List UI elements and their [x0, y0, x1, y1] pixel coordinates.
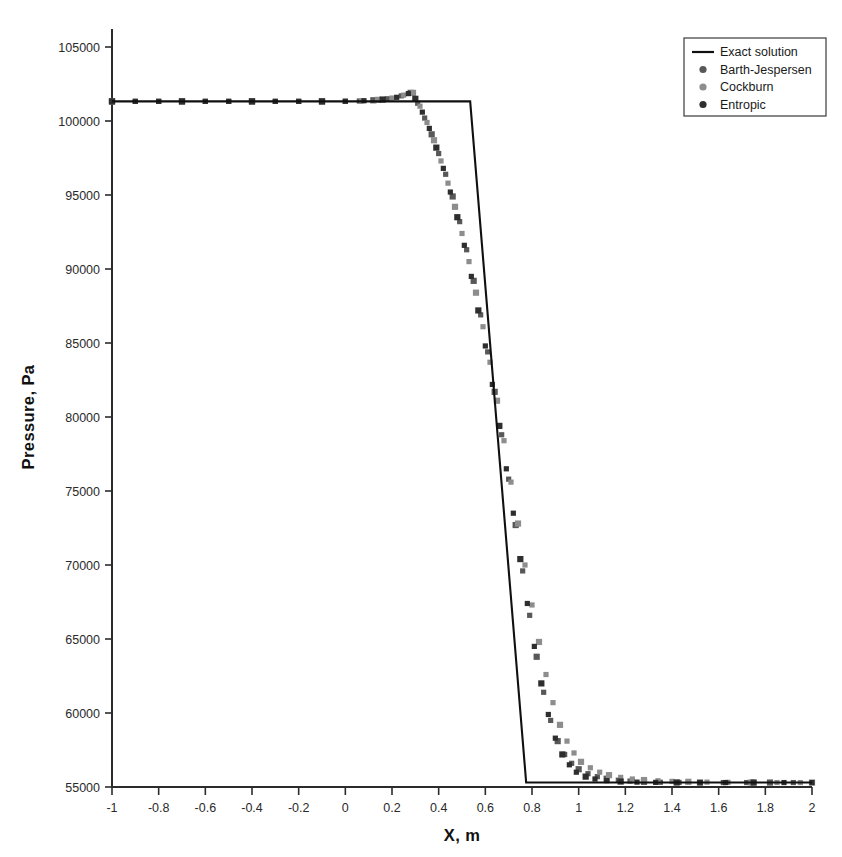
data-point	[436, 151, 441, 156]
y-tick-label: 60000	[65, 707, 100, 721]
data-point	[429, 131, 435, 137]
legend-label: Exact solution	[720, 45, 798, 59]
data-point	[420, 110, 425, 115]
y-tick-label: 100000	[58, 115, 100, 129]
series-cockburn	[109, 90, 815, 786]
y-tick-label: 80000	[65, 411, 100, 425]
legend-dot-swatch	[699, 66, 706, 73]
data-point	[522, 562, 527, 567]
data-point	[389, 95, 394, 100]
data-point	[588, 765, 593, 770]
data-point	[417, 104, 422, 109]
x-axis-tickmarks	[112, 787, 812, 795]
data-point	[534, 654, 540, 660]
data-point	[532, 644, 537, 649]
y-axis-tickmarks	[105, 47, 112, 787]
data-point	[485, 349, 490, 354]
data-point	[548, 718, 553, 723]
data-point	[517, 556, 523, 562]
data-point	[592, 776, 597, 781]
x-tick-label: 1.8	[757, 801, 774, 815]
x-tick-label: -0.8	[148, 801, 170, 815]
data-point	[464, 247, 469, 252]
data-point	[550, 700, 555, 705]
x-tick-label: 1	[575, 801, 582, 815]
chart-legend: Exact solutionBarth-JespersenCockburnEnt…	[684, 38, 826, 116]
x-tick-label: -1	[106, 801, 117, 815]
data-point	[597, 770, 602, 775]
x-tick-label: 0.8	[523, 801, 540, 815]
data-point	[557, 722, 563, 728]
series-entropic	[109, 91, 815, 786]
y-tick-label: 55000	[65, 781, 100, 795]
chart-canvas: 5500060000650007000075000800008500090000…	[0, 0, 842, 857]
y-tick-label: 75000	[65, 485, 100, 499]
data-point	[483, 343, 488, 348]
data-point	[538, 680, 544, 686]
y-tick-label: 105000	[58, 41, 100, 55]
data-point	[520, 568, 525, 573]
data-point	[571, 750, 576, 755]
x-tick-label: 0.2	[383, 801, 400, 815]
data-point	[508, 480, 513, 485]
data-point	[546, 712, 551, 717]
data-point	[473, 290, 479, 296]
x-tick-label: -0.2	[288, 801, 310, 815]
x-tick-label: 0.4	[430, 801, 447, 815]
data-point	[630, 776, 635, 781]
x-axis-tick-labels: -1-0.8-0.6-0.4-0.200.20.40.60.811.21.41.…	[106, 801, 815, 815]
data-point	[469, 274, 474, 279]
x-tick-label: 2	[809, 801, 816, 815]
data-point	[559, 751, 565, 757]
x-tick-label: 1.2	[617, 801, 634, 815]
data-series-markers	[109, 90, 815, 786]
data-point	[401, 93, 406, 98]
pressure-profile-figure: 5500060000650007000075000800008500090000…	[0, 0, 842, 857]
data-point	[475, 307, 481, 313]
x-tick-label: 0.6	[477, 801, 494, 815]
y-tick-label: 85000	[65, 337, 100, 351]
exact-solution-line	[112, 101, 812, 782]
series-barth-jespersen	[109, 90, 815, 786]
y-axis-title: Pressure, Pa	[19, 364, 37, 469]
data-point	[511, 511, 516, 516]
data-point	[422, 115, 427, 120]
x-tick-label: 0	[342, 801, 349, 815]
data-point	[564, 739, 569, 744]
legend-label: Entropic	[720, 98, 766, 112]
legend-dot-swatch	[699, 83, 706, 90]
data-point	[578, 759, 584, 765]
data-point	[452, 204, 458, 210]
data-point	[424, 120, 429, 125]
data-point	[448, 189, 453, 194]
data-point	[499, 432, 504, 437]
data-point	[541, 690, 546, 695]
y-tick-label: 70000	[65, 559, 100, 573]
data-point	[583, 774, 589, 780]
y-tick-label: 65000	[65, 633, 100, 647]
data-point	[466, 259, 471, 264]
data-point	[406, 91, 411, 96]
x-axis-title: X, m	[444, 826, 480, 844]
data-point	[553, 736, 558, 741]
data-point	[480, 324, 485, 329]
y-tick-label: 90000	[65, 263, 100, 277]
data-point	[441, 166, 446, 171]
x-tick-label: 1.4	[663, 801, 680, 815]
x-tick-label: -0.6	[195, 801, 217, 815]
data-point	[567, 762, 572, 767]
data-point	[433, 145, 439, 151]
data-point	[527, 613, 532, 618]
legend-label: Barth-Jespersen	[720, 63, 812, 77]
data-point	[427, 126, 432, 131]
data-point	[431, 137, 437, 143]
data-point	[438, 158, 443, 163]
data-point	[574, 770, 579, 775]
data-point	[454, 214, 460, 220]
data-point	[394, 95, 399, 100]
data-point	[504, 466, 509, 471]
y-tick-label: 95000	[65, 189, 100, 203]
data-point	[515, 520, 521, 526]
data-point	[459, 231, 464, 236]
data-point	[529, 602, 534, 607]
